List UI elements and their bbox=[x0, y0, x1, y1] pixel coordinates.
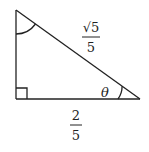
right-triangle-diagram: √5 5 θ 2 5 bbox=[0, 0, 149, 152]
theta-angle-arc bbox=[118, 86, 122, 99]
hypotenuse-label: √5 5 bbox=[82, 20, 100, 55]
hypotenuse-numerator: √5 bbox=[83, 20, 100, 35]
top-angle-arc bbox=[16, 24, 36, 34]
base-numerator: 2 bbox=[72, 108, 80, 123]
base-label: 2 5 bbox=[70, 108, 82, 143]
right-angle-marker bbox=[16, 88, 27, 99]
hypotenuse bbox=[16, 10, 140, 99]
hypotenuse-denominator: 5 bbox=[87, 40, 95, 55]
theta-label: θ bbox=[101, 85, 109, 100]
base-denominator: 5 bbox=[72, 128, 80, 143]
